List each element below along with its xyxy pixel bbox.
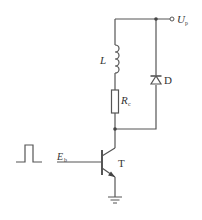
inductor-label: L <box>99 54 106 66</box>
square-pulse-icon <box>16 145 42 162</box>
supply-label-sub: p <box>185 20 188 26</box>
diode-icon <box>151 76 162 84</box>
inductor-icon <box>115 45 119 73</box>
supply-terminal-icon <box>170 17 174 21</box>
diode-label: D <box>164 74 172 86</box>
base-input-label-sub: b <box>64 157 67 163</box>
right-wire-bottom <box>115 85 156 129</box>
base-input-label: E <box>56 151 63 162</box>
resistor-icon <box>112 90 119 113</box>
ground-icon <box>108 197 122 203</box>
collector-diagonal <box>102 148 115 156</box>
resistor-label-sub: c <box>128 101 131 107</box>
junction-dot-top <box>154 17 158 21</box>
transistor-label: T <box>118 157 125 169</box>
circuit-diagram: U p L R c D E b T <box>0 0 202 220</box>
resistor-label: R <box>120 94 128 106</box>
junction-dot-bottom <box>113 127 117 131</box>
